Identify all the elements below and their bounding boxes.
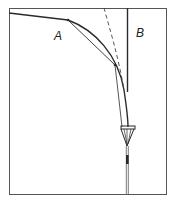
sloped-line — [9, 13, 68, 20]
diagram: A B — [0, 0, 170, 201]
thin-lower-line — [115, 65, 122, 127]
straight-chord — [68, 20, 115, 65]
curved-path — [68, 20, 128, 127]
rod — [126, 146, 129, 195]
cone-cup — [121, 126, 135, 146]
label-a: A — [53, 29, 62, 43]
label-b: B — [136, 26, 144, 40]
